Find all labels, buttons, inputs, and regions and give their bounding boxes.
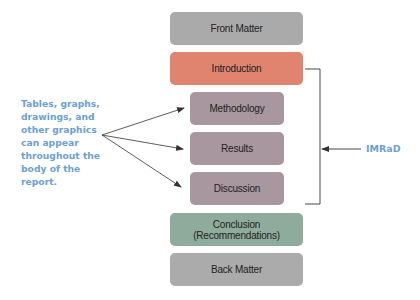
section-label: Back Matter: [211, 264, 262, 275]
imrad-bracket: [305, 69, 361, 204]
section-conclusion: Conclusion (Recommendations): [170, 213, 303, 246]
section-label: Methodology: [209, 103, 264, 114]
note-line: report.: [21, 175, 101, 188]
note-line: other graphics: [21, 123, 101, 136]
section-label: Conclusion: [213, 219, 260, 230]
arrow-to-results: [102, 135, 183, 149]
section-introduction: Introduction: [170, 52, 303, 85]
section-methodology: Methodology: [190, 92, 284, 125]
arrow-to-discussion: [102, 135, 181, 187]
section-back-matter: Back Matter: [170, 253, 303, 286]
arrow-to-methodology: [102, 108, 184, 135]
section-discussion: Discussion: [190, 172, 284, 205]
section-label: Results: [221, 143, 253, 154]
section-label: Front Matter: [210, 23, 262, 34]
graphics-arrows: [102, 108, 184, 187]
section-label: Discussion: [214, 183, 260, 194]
note-line: throughout the: [21, 149, 101, 162]
note-line: drawings, and: [21, 110, 101, 123]
section-front-matter: Front Matter: [170, 12, 303, 45]
section-sublabel: (Recommendations): [193, 230, 280, 241]
imrad-label: IMRaD: [366, 142, 401, 155]
section-label: Introduction: [212, 63, 262, 74]
note-line: Tables, graphs,: [21, 97, 101, 110]
note-line: body of the: [21, 162, 101, 175]
note-line: can appear: [21, 136, 101, 149]
section-results: Results: [190, 132, 284, 165]
graphics-note: Tables, graphs, drawings, and other grap…: [21, 97, 101, 188]
